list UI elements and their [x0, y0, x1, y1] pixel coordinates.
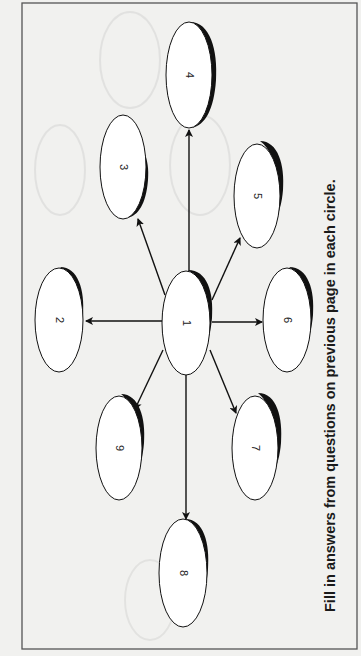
node-6-label: 6: [282, 317, 294, 323]
node-9-label: 9: [114, 445, 126, 451]
node-7[interactable]: 7: [232, 393, 281, 500]
node-5[interactable]: 5: [234, 141, 283, 248]
node-3-label: 3: [118, 164, 130, 170]
node-9[interactable]: 9: [96, 394, 144, 500]
spider-diagram: 4 3 5 2 1 6 9 7 8 Fill: [0, 0, 361, 656]
node-3[interactable]: 3: [100, 115, 148, 219]
arrow-1-to-7: [210, 350, 236, 413]
node-4-label: 4: [184, 72, 196, 78]
node-2-label: 2: [54, 317, 66, 323]
arrow-1-to-5: [212, 238, 240, 300]
node-4[interactable]: 4: [166, 22, 216, 128]
arrow-1-to-3: [138, 219, 165, 295]
node-1-label: 1: [181, 320, 193, 326]
node-5-label: 5: [252, 193, 264, 199]
node-8-label: 8: [178, 570, 190, 576]
node-8[interactable]: 8: [159, 519, 208, 627]
instruction-text: Fill in answers from questions on previo…: [322, 179, 338, 612]
node-6[interactable]: 6: [263, 267, 313, 372]
node-7-label: 7: [250, 445, 262, 451]
node-2[interactable]: 2: [35, 267, 83, 372]
arrow-1-to-9: [135, 350, 163, 409]
node-1-center[interactable]: 1: [162, 270, 212, 375]
